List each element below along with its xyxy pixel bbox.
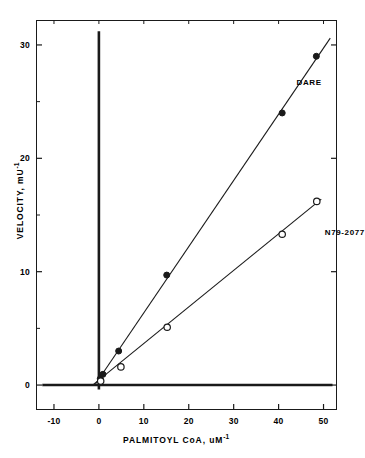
- x-axis-tick-label: 0: [82, 416, 116, 426]
- x-axis-tick-label: -10: [37, 416, 71, 426]
- y-axis-tick-label: 0: [4, 380, 30, 390]
- x-axis-title-text: PALMITOYL CoA, uM: [123, 435, 223, 445]
- y-axis-title: VELOCITY, mU-1: [13, 126, 25, 276]
- x-axis-tick-label: 20: [172, 416, 206, 426]
- x-axis-tick-label: 30: [217, 416, 251, 426]
- y-axis-tick-label: 30: [4, 40, 30, 50]
- plot-area: [36, 20, 337, 410]
- x-axis-title-superscript: -1: [223, 433, 229, 440]
- x-axis-title: PALMITOYL CoA, uM-1: [0, 433, 352, 445]
- series-label: DARE: [297, 78, 322, 87]
- series-label: N79-2077: [325, 228, 365, 237]
- x-axis-tick-label: 10: [127, 416, 161, 426]
- y-axis-title-text: VELOCITY, mU: [15, 168, 25, 239]
- x-axis-tick-label: 40: [262, 416, 296, 426]
- y-axis-title-superscript: -1: [13, 163, 20, 169]
- x-axis-tick-label: 50: [307, 416, 341, 426]
